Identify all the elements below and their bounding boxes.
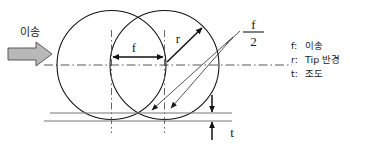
legend-item-r: r: Tip 반경 — [291, 54, 340, 65]
half-feed-numerator-label: f — [251, 17, 256, 32]
half-feed-tick — [226, 31, 240, 44]
half-feed-leader-right — [171, 37, 233, 108]
roughness-diagram: f r f 2 t 이송 f: 이송 r: Tip 반경 t: 조도 — [0, 0, 373, 150]
legend-meaning-t: 조도 — [305, 68, 323, 79]
legend: f: 이송 r: Tip 반경 t: 조도 — [291, 40, 340, 79]
legend-symbol-t: t: — [291, 68, 298, 79]
legend-meaning-r: Tip 반경 — [304, 54, 340, 65]
figure-root: f r f 2 t 이송 f: 이송 r: Tip 반경 t: 조도 — [0, 0, 373, 150]
half-feed-denominator-label: 2 — [250, 34, 257, 49]
feed-direction-label: 이송 — [20, 26, 40, 39]
feed-dimension-label: f — [132, 40, 137, 55]
legend-symbol-r: r: — [291, 54, 298, 65]
radius-dimension-label: r — [176, 31, 181, 46]
legend-item-f: f: 이송 — [291, 40, 323, 51]
legend-item-t: t: 조도 — [291, 68, 323, 79]
legend-symbol-f: f: — [291, 40, 297, 51]
radius-dimension-arrow — [167, 28, 202, 62]
roughness-dimension-label: t — [230, 125, 234, 140]
legend-meaning-f: 이송 — [305, 40, 323, 51]
feed-direction-arrow-icon — [8, 42, 52, 66]
